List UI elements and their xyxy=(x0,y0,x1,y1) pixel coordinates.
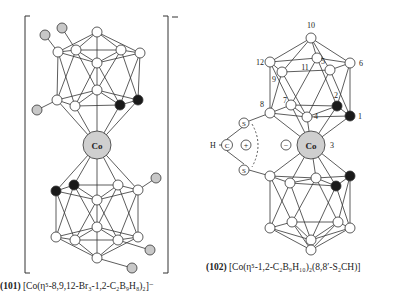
svg-text:9: 9 xyxy=(272,75,276,84)
carbon-atom xyxy=(331,181,341,191)
carbon-atom xyxy=(69,180,79,190)
carbon-atom xyxy=(345,171,355,181)
svg-text:S: S xyxy=(242,167,246,175)
svg-text:8: 8 xyxy=(260,100,264,109)
svg-text:+: + xyxy=(244,141,249,150)
bromine-atom xyxy=(32,105,42,115)
carbon-atom xyxy=(332,101,342,111)
caption-101: (101) [Co(η⁵-8,9,12-Br₃-1,2-C₂B₉H₈)₂]⁻ xyxy=(0,280,154,291)
svg-text:5: 5 xyxy=(321,57,325,66)
svg-text:H: H xyxy=(210,141,216,150)
carbon-atom xyxy=(115,100,125,110)
svg-text:2: 2 xyxy=(334,91,338,100)
bromine-atom xyxy=(57,23,67,33)
svg-text:S: S xyxy=(242,120,246,128)
bromine-atom xyxy=(127,263,137,273)
svg-text:4: 4 xyxy=(314,112,318,121)
carbon-atom xyxy=(133,95,143,105)
caption-102: (102) [Co(η⁵-1,2-C₂B₉H₁₀)₂(8,8′-S₂CH)] xyxy=(206,262,361,272)
bromine-atom xyxy=(40,30,50,40)
carbon-atom xyxy=(51,186,61,196)
svg-text:1: 1 xyxy=(358,112,362,121)
svg-text:6: 6 xyxy=(359,59,363,68)
svg-text:−: − xyxy=(284,141,289,150)
bromine-atom xyxy=(151,173,161,183)
svg-text:12: 12 xyxy=(256,58,264,67)
carbon-atom xyxy=(345,111,355,121)
svg-text:10: 10 xyxy=(307,21,315,30)
diagram-canvas: Co Co S S C xyxy=(0,0,395,296)
bromine-atom xyxy=(145,245,155,255)
svg-text:C: C xyxy=(225,142,230,150)
svg-text:11: 11 xyxy=(301,63,309,72)
cobalt-label-101: Co xyxy=(92,141,103,151)
cobalt-label-102: Co xyxy=(306,141,317,151)
svg-text:3: 3 xyxy=(330,141,334,150)
svg-text:7: 7 xyxy=(283,96,287,105)
